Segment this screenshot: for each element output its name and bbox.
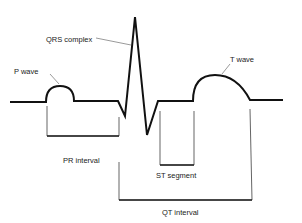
pr-interval-bracket — [47, 106, 119, 136]
t-wave-leader-line — [222, 64, 230, 74]
t-wave-label: T wave — [230, 55, 254, 64]
pr-interval-label: PR interval — [63, 156, 100, 165]
p-wave-leader-line — [50, 74, 59, 84]
qrs-leader-line — [96, 38, 131, 45]
p-wave-label: P wave — [14, 67, 38, 76]
qt-interval-label: QT interval — [162, 208, 199, 217]
qt-interval-bracket — [119, 109, 252, 200]
ecg-diagram: QRS complex P wave T wave PR interval ST… — [0, 0, 302, 223]
st-segment-label: ST segment — [156, 171, 197, 180]
st-segment-bracket — [160, 111, 194, 165]
qrs-complex-label: QRS complex — [46, 35, 93, 44]
